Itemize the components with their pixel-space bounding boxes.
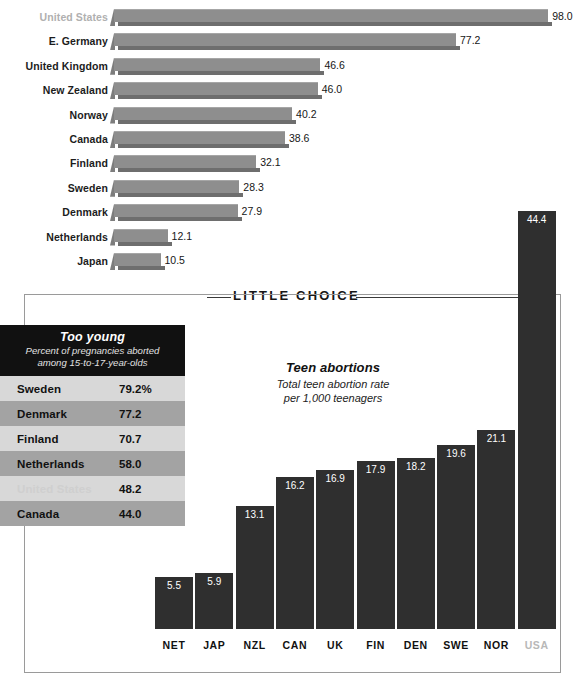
table-row: Netherlands58.0 — [0, 451, 185, 476]
table-cell-percent: 58.0 — [119, 458, 173, 470]
hbar-row: Sweden28.3 — [0, 179, 585, 198]
hbar-value-label: 40.2 — [296, 106, 316, 123]
hbar — [114, 204, 238, 221]
too-young-subtitle-line1: Percent of pregnancies aborted — [8, 345, 177, 357]
hbar-shadow-face — [118, 217, 242, 221]
hbar-top-face — [114, 9, 548, 22]
teen-abortions-subtitle-line1: Total teen abortion rate — [238, 378, 428, 392]
hbar-category-label: Japan — [0, 252, 108, 271]
top-bar-chart: United States98.0E. Germany77.2United Ki… — [0, 0, 585, 285]
hbar-category-label: Denmark — [0, 203, 108, 222]
hbar-top-face — [114, 131, 285, 144]
hbar-top-face — [114, 155, 256, 168]
hbar-top-face — [114, 229, 168, 242]
hbar — [114, 131, 285, 148]
hbar-category-label: United States — [0, 8, 108, 27]
hbar — [114, 107, 292, 124]
table-cell-country: Denmark — [17, 408, 119, 420]
hbar-row: Finland32.1 — [0, 154, 585, 173]
hbar-category-label: Netherlands — [0, 228, 108, 247]
table-cell-country: Sweden — [17, 383, 119, 395]
hbar — [114, 253, 161, 270]
teen-abortions-title: Teen abortions — [238, 360, 428, 375]
table-row: United States48.2 — [0, 476, 185, 501]
hbar-shadow-face — [118, 95, 322, 99]
table-cell-percent: 70.7 — [119, 433, 173, 445]
hbar-row: Netherlands12.1 — [0, 228, 585, 247]
hbar-value-label: 12.1 — [172, 228, 192, 245]
hbar-top-face — [114, 58, 320, 71]
hbar-row: United Kingdom46.6 — [0, 57, 585, 76]
hbar-category-label: Sweden — [0, 179, 108, 198]
hbar-top-face — [114, 180, 239, 193]
table-row: Canada44.0 — [0, 501, 185, 526]
hbar-value-label: 98.0 — [552, 8, 572, 25]
too-young-table: Too young Percent of pregnancies aborted… — [0, 325, 185, 526]
table-cell-percent: 48.2 — [119, 483, 173, 495]
hbar-row: Canada38.6 — [0, 130, 585, 149]
hbar-value-label: 38.6 — [289, 130, 309, 147]
hbar — [114, 9, 548, 26]
hbar-value-label: 32.1 — [260, 154, 280, 171]
hbar-shadow-face — [118, 242, 172, 246]
hbar-category-label: New Zealand — [0, 81, 108, 100]
hbar — [114, 58, 320, 75]
hbar-value-label: 46.6 — [324, 57, 344, 74]
table-cell-country: Netherlands — [17, 458, 119, 470]
too-young-subtitle-line2: among 15-to-17-year-olds — [8, 357, 177, 369]
hbar-shadow-face — [118, 193, 243, 197]
hbar-row: Norway40.2 — [0, 106, 585, 125]
hbar — [114, 155, 256, 172]
hbar-category-label: United Kingdom — [0, 57, 108, 76]
table-cell-percent: 77.2 — [119, 408, 173, 420]
table-cell-country: Finland — [17, 433, 119, 445]
table-cell-country: Canada — [17, 508, 119, 520]
hbar-category-label: E. Germany — [0, 32, 108, 51]
hbar-row: United States98.0 — [0, 8, 585, 27]
hbar-top-face — [114, 33, 456, 46]
hbar-row: E. Germany77.2 — [0, 32, 585, 51]
hbar-top-face — [114, 107, 292, 120]
hbar-shadow-face — [118, 120, 296, 124]
hbar-shadow-face — [118, 22, 552, 26]
hbar-category-label: Norway — [0, 106, 108, 125]
hbar-shadow-face — [118, 71, 324, 75]
hbar-value-label: 77.2 — [460, 32, 480, 49]
table-cell-country: United States — [17, 483, 119, 495]
hbar-category-label: Canada — [0, 130, 108, 149]
hbar-value-label: 27.9 — [242, 203, 262, 220]
too-young-rows: Sweden79.2%Denmark77.2Finland70.7Netherl… — [0, 376, 185, 526]
too-young-header: Too young Percent of pregnancies aborted… — [0, 325, 185, 376]
hbar — [114, 33, 456, 50]
hbar — [114, 229, 168, 246]
hbar-top-face — [114, 82, 318, 95]
hbar-value-label: 28.3 — [243, 179, 263, 196]
hbar-row: Denmark27.9 — [0, 203, 585, 222]
table-row: Denmark77.2 — [0, 401, 185, 426]
hbar — [114, 180, 239, 197]
hbar-shadow-face — [118, 266, 165, 270]
table-cell-percent: 44.0 — [119, 508, 173, 520]
table-cell-percent: 79.2% — [119, 383, 173, 395]
too-young-title: Too young — [8, 330, 177, 344]
hbar — [114, 82, 318, 99]
hbar-shadow-face — [118, 168, 260, 172]
hbar-shadow-face — [118, 46, 460, 50]
hbar-top-face — [114, 253, 161, 266]
hbar-row: Japan10.5 — [0, 252, 585, 271]
hbar-row: New Zealand46.0 — [0, 81, 585, 100]
hbar-top-face — [114, 204, 238, 217]
hbar-shadow-face — [118, 144, 289, 148]
hbar-category-label: Finland — [0, 154, 108, 173]
table-row: Sweden79.2% — [0, 376, 185, 401]
teen-abortions-caption: Teen abortions Total teen abortion rate … — [238, 360, 428, 405]
table-row: Finland70.7 — [0, 426, 185, 451]
teen-abortions-subtitle-line2: per 1,000 teenagers — [238, 392, 428, 406]
hbar-value-label: 46.0 — [322, 81, 342, 98]
hbar-value-label: 10.5 — [165, 252, 185, 269]
